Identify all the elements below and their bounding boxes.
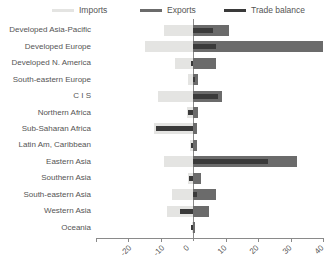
legend-item-exports[interactable]: Exports xyxy=(140,0,196,20)
axis-tick xyxy=(226,238,227,242)
plot-area: Developed Asia-PacificDeveloped EuropeDe… xyxy=(0,22,323,236)
bar-trade-balance[interactable] xyxy=(193,94,217,99)
axis-tick xyxy=(323,238,324,242)
chart-row xyxy=(96,55,323,71)
bar-imports[interactable] xyxy=(145,41,194,52)
chart-row xyxy=(96,22,323,38)
chart-row xyxy=(96,88,323,104)
chart-legend: Imports Exports Trade balance xyxy=(0,0,323,20)
category-label: Developed Asia-Pacific xyxy=(9,26,91,34)
category-label: Western Asia xyxy=(44,207,91,215)
bar-trade-balance[interactable] xyxy=(193,159,268,164)
bar-exports[interactable] xyxy=(193,123,196,134)
legend-swatch-trade-balance xyxy=(224,9,246,12)
bar-exports[interactable] xyxy=(193,58,216,69)
chart-row xyxy=(96,121,323,137)
bar-exports[interactable] xyxy=(193,140,196,151)
category-label: Oceania xyxy=(61,224,91,232)
bar-trade-balance[interactable] xyxy=(193,44,216,49)
category-label: Eastern Asia xyxy=(46,158,91,166)
axis-tick xyxy=(291,238,292,242)
category-label: South-eastern Asia xyxy=(23,191,91,199)
bar-imports[interactable] xyxy=(164,25,193,36)
chart-row xyxy=(96,203,323,219)
bar-exports[interactable] xyxy=(193,189,216,200)
axis-tick xyxy=(161,238,162,242)
axis-tick xyxy=(193,235,194,241)
bar-trade-balance[interactable] xyxy=(191,61,194,66)
chart-row xyxy=(96,187,323,203)
bar-trade-balance[interactable] xyxy=(193,28,212,33)
legend-label-imports: Imports xyxy=(79,6,107,15)
axis-line xyxy=(96,238,323,239)
bar-exports[interactable] xyxy=(193,222,195,233)
category-label: South-eastern Europe xyxy=(13,76,91,84)
category-label: Sub-Saharan Africa xyxy=(22,125,91,133)
axis-tick-label: 10 xyxy=(216,244,228,256)
category-axis-labels: Developed Asia-PacificDeveloped EuropeDe… xyxy=(0,22,94,236)
legend-swatch-imports xyxy=(52,9,74,12)
bar-trade-balance[interactable] xyxy=(193,77,195,82)
bar-trade-balance[interactable] xyxy=(191,143,193,148)
bars-layer xyxy=(96,22,323,236)
bar-trade-balance[interactable] xyxy=(188,110,193,115)
category-label: Developed Europe xyxy=(25,43,91,51)
category-label: Developed N. America xyxy=(11,59,91,67)
chart-row xyxy=(96,71,323,87)
bar-imports[interactable] xyxy=(158,91,194,102)
chart-row xyxy=(96,104,323,120)
legend-label-trade-balance: Trade balance xyxy=(251,6,305,15)
axis-tick xyxy=(128,238,129,242)
value-axis: -20-10010203040 xyxy=(96,238,323,273)
bar-exports[interactable] xyxy=(193,173,201,184)
bar-exports[interactable] xyxy=(193,107,198,118)
chart-row xyxy=(96,220,323,236)
category-label: Northern Africa xyxy=(38,109,91,117)
legend-swatch-exports xyxy=(140,9,162,12)
axis-tick-label: 0 xyxy=(183,244,192,253)
bar-trade-balance[interactable] xyxy=(191,225,194,230)
category-label: Southern Asia xyxy=(41,174,91,182)
bar-trade-balance[interactable] xyxy=(180,209,193,214)
bar-exports[interactable] xyxy=(193,206,209,217)
chart-row xyxy=(96,38,323,54)
category-label: C I S xyxy=(73,92,91,100)
axis-tick xyxy=(258,238,259,242)
axis-tick-label: 20 xyxy=(249,244,261,256)
bar-imports[interactable] xyxy=(164,156,193,167)
axis-tick xyxy=(96,238,97,242)
axis-tick-label: 40 xyxy=(314,244,326,256)
axis-tick-label: 30 xyxy=(281,244,293,256)
chart-row xyxy=(96,154,323,170)
legend-label-exports: Exports xyxy=(167,6,196,15)
category-label: Latin Am, Caribbean xyxy=(19,141,92,149)
bar-trade-balance[interactable] xyxy=(193,192,196,197)
axis-tick-label: -10 xyxy=(152,244,166,258)
chart-row xyxy=(96,170,323,186)
bar-trade-balance[interactable] xyxy=(156,126,193,131)
legend-item-imports[interactable]: Imports xyxy=(52,0,107,20)
chart-row xyxy=(96,137,323,153)
bar-trade-balance[interactable] xyxy=(189,176,193,181)
legend-item-trade-balance[interactable]: Trade balance xyxy=(224,0,305,20)
bar-imports[interactable] xyxy=(172,189,193,200)
axis-tick-label: -20 xyxy=(120,244,134,258)
